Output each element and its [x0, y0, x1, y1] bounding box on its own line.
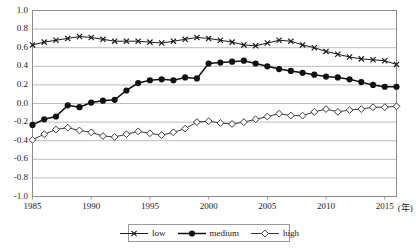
- series-line: [33, 106, 397, 139]
- data-point-marker: [264, 113, 271, 120]
- series-layer: [29, 34, 400, 143]
- data-point-marker: [76, 127, 83, 134]
- data-point-marker: [100, 133, 107, 140]
- y-axis-tick-label: -0.8: [0, 172, 28, 182]
- data-point-marker: [76, 104, 82, 110]
- data-point-marker: [252, 60, 258, 66]
- data-point-marker: [358, 106, 365, 113]
- chart-legend: lowmediumhigh: [128, 224, 290, 242]
- legend-item-low[interactable]: low: [119, 228, 166, 239]
- data-point-marker: [393, 103, 400, 110]
- x-axis-tick-label: 1985: [21, 201, 45, 211]
- data-point-marker: [381, 104, 388, 111]
- legend-marker-circle-filled-icon: [177, 228, 207, 239]
- data-point-marker: [188, 230, 194, 236]
- data-point-marker: [335, 74, 341, 80]
- data-point-marker: [346, 76, 352, 82]
- data-point-marker: [276, 66, 282, 72]
- data-point-marker: [370, 104, 377, 111]
- x-axis-tick-label: 1995: [138, 201, 162, 211]
- data-point-marker: [217, 59, 223, 65]
- data-point-marker: [240, 119, 247, 126]
- data-point-marker: [194, 75, 200, 81]
- y-axis-tick-label: 0.6: [0, 42, 28, 52]
- data-point-marker: [334, 108, 341, 115]
- data-point-marker: [123, 131, 130, 138]
- y-axis-tick-label: 0.0: [0, 98, 28, 108]
- data-point-marker: [64, 124, 71, 131]
- data-point-marker: [65, 102, 71, 108]
- y-axis-tick-label: 0.8: [0, 23, 28, 33]
- data-point-marker: [217, 120, 224, 127]
- data-point-marker: [311, 72, 317, 78]
- data-point-marker: [288, 68, 294, 74]
- data-point-marker: [205, 118, 212, 125]
- legend-marker-x-icon: [119, 228, 149, 239]
- data-point-marker: [346, 107, 353, 114]
- data-point-marker: [241, 58, 247, 64]
- data-point-marker: [29, 136, 36, 143]
- data-point-marker: [147, 130, 154, 137]
- data-point-marker: [382, 84, 388, 90]
- data-point-marker: [29, 122, 35, 128]
- legend-marker-diamond-open-icon: [250, 228, 280, 239]
- data-point-marker: [323, 73, 329, 79]
- data-point-marker: [370, 82, 376, 88]
- data-point-marker: [276, 110, 283, 117]
- data-point-marker: [206, 60, 212, 66]
- data-point-marker: [112, 97, 118, 103]
- data-point-marker: [135, 128, 142, 135]
- data-point-marker: [262, 230, 269, 237]
- data-point-marker: [53, 126, 60, 133]
- data-point-marker: [252, 116, 259, 123]
- data-point-marker: [193, 119, 200, 126]
- data-point-marker: [158, 132, 165, 139]
- legend-item-medium[interactable]: medium: [177, 228, 240, 239]
- data-point-marker: [88, 129, 95, 136]
- y-axis-tick-label: 0.2: [0, 79, 28, 89]
- data-point-marker: [264, 63, 270, 69]
- data-point-marker: [299, 112, 306, 119]
- data-point-marker: [135, 80, 141, 86]
- legend-item-high[interactable]: high: [250, 228, 299, 239]
- data-point-marker: [111, 134, 118, 141]
- data-point-marker: [323, 106, 330, 113]
- data-point-marker: [170, 77, 176, 83]
- x-axis-tick-label: 2005: [255, 201, 279, 211]
- data-point-marker: [393, 84, 399, 90]
- x-axis-tick-label: 2010: [314, 201, 338, 211]
- data-point-marker: [123, 87, 129, 93]
- series-low: [30, 34, 399, 67]
- data-point-marker: [299, 70, 305, 76]
- line-chart: -1.0-0.8-0.6-0.4-0.20.00.20.40.60.81.0 1…: [0, 0, 416, 248]
- series-line: [33, 37, 397, 65]
- data-point-marker: [100, 98, 106, 104]
- data-point-marker: [88, 99, 94, 105]
- data-point-marker: [229, 121, 236, 128]
- x-axis-tick-label: 1990: [79, 201, 103, 211]
- data-point-marker: [182, 74, 188, 80]
- y-axis-tick-label: 1.0: [0, 5, 28, 15]
- data-point-marker: [147, 77, 153, 83]
- data-point-marker: [287, 112, 294, 119]
- data-point-marker: [170, 129, 177, 136]
- x-axis-unit-label: (年): [398, 201, 413, 214]
- data-point-marker: [229, 59, 235, 65]
- data-point-marker: [182, 125, 189, 132]
- data-point-marker: [41, 131, 48, 138]
- series-medium: [29, 58, 399, 128]
- x-axis-tick-label: 2000: [197, 201, 221, 211]
- y-axis-tick-label: -1.0: [0, 191, 28, 201]
- series-high: [29, 103, 400, 143]
- y-axis-tick-label: -0.2: [0, 116, 28, 126]
- x-axis-tick-label: 2015: [373, 201, 397, 211]
- data-point-marker: [358, 79, 364, 85]
- legend-label: high: [283, 228, 299, 238]
- legend-label: low: [152, 228, 166, 238]
- chart-canvas: [0, 0, 416, 248]
- data-point-marker: [311, 108, 318, 115]
- y-axis-tick-label: -0.4: [0, 135, 28, 145]
- data-point-marker: [159, 76, 165, 82]
- y-axis-tick-label: -0.6: [0, 153, 28, 163]
- legend-label: medium: [210, 228, 240, 238]
